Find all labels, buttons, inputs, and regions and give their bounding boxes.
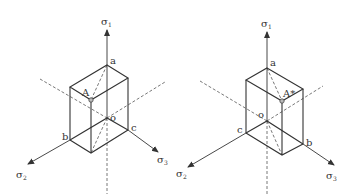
right-point-A-star-label: A* <box>282 88 295 99</box>
right-vertex-a: a <box>270 57 276 68</box>
left-sigma1-sub: 1 <box>108 21 112 28</box>
right-sigma2-sub: 2 <box>183 173 187 180</box>
right-sigma2-axis <box>188 133 246 167</box>
right-point-A-star <box>280 99 284 103</box>
left-sigma3-label: σ <box>157 154 164 165</box>
left-sigma3-axis <box>128 130 158 152</box>
right-box <box>246 68 303 155</box>
left-vertex-b: b <box>62 131 68 142</box>
right-sigma1-label: σ <box>261 18 268 29</box>
right-dashed-lines <box>200 68 323 194</box>
left-sigma2-axis <box>28 140 70 164</box>
left-sigma2-sub: 2 <box>23 174 27 181</box>
left-vertex-c: c <box>131 122 137 133</box>
right-sigma3-label: σ <box>326 170 333 181</box>
left-axes <box>28 30 158 164</box>
right-sigma3-sub: 3 <box>333 175 337 182</box>
left-diagram: σ 1 σ 2 σ 3 a A b c o <box>16 16 168 194</box>
stress-space-diagram: σ 1 σ 2 σ 3 a A b c o <box>0 0 353 196</box>
left-origin-o: o <box>110 112 116 123</box>
left-sigma1-label: σ <box>101 16 108 27</box>
right-diagram: σ 1 σ 2 σ 3 a A* c b o <box>176 18 337 194</box>
left-point-A <box>89 98 93 102</box>
left-point-A-label: A <box>81 87 90 98</box>
left-dashed-lines <box>40 65 165 194</box>
left-sigma3-sub: 3 <box>164 159 168 166</box>
right-vertex-c: c <box>237 124 243 135</box>
right-origin-o: o <box>258 109 264 120</box>
right-vertex-b: b <box>306 137 312 148</box>
right-sigma2-label: σ <box>176 168 183 179</box>
right-sigma1-sub: 1 <box>268 23 272 30</box>
left-box <box>70 65 128 153</box>
left-vertex-a: a <box>110 55 116 66</box>
left-sigma2-label: σ <box>16 169 23 180</box>
